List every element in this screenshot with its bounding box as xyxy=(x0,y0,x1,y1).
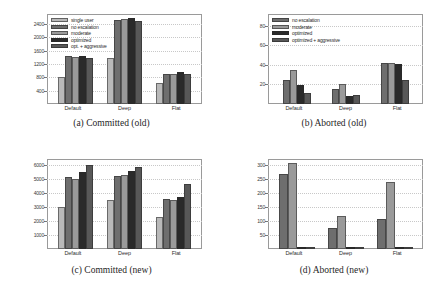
y-tick-label: 300 xyxy=(257,162,265,168)
legend-item: no escalation xyxy=(51,24,107,30)
bar-group xyxy=(279,159,315,249)
bar xyxy=(65,56,72,104)
plot-area-d: 50100150200250300 xyxy=(268,159,423,249)
legend-item: single user xyxy=(51,17,107,23)
x-axis-label: Deep xyxy=(321,250,369,256)
y-tick-label: 2000 xyxy=(34,34,44,40)
bar xyxy=(135,167,142,249)
bar xyxy=(386,182,395,249)
bar xyxy=(163,199,170,249)
x-axis-label: Deep xyxy=(100,105,148,111)
bar xyxy=(404,247,413,249)
bar xyxy=(337,216,346,249)
bar xyxy=(128,171,135,249)
bar xyxy=(86,165,93,249)
legend-swatch xyxy=(51,25,68,29)
bar xyxy=(339,84,346,104)
x-axis-label: Default xyxy=(49,250,97,256)
y-tick-label: 20 xyxy=(260,81,265,87)
bar xyxy=(304,93,311,104)
legend-swatch xyxy=(51,31,68,35)
y-tick-label: 60 xyxy=(260,42,265,48)
y-tick-label: 6000 xyxy=(34,162,44,168)
y-tick-label: 5000 xyxy=(34,176,44,182)
legend-label: moderate xyxy=(292,24,312,30)
bar xyxy=(121,19,128,104)
y-tick-label: 800 xyxy=(36,74,44,80)
legend-label: single user xyxy=(71,17,94,23)
legend-swatch xyxy=(51,18,68,22)
x-axis-label: Deep xyxy=(100,250,148,256)
legend-item: optimized xyxy=(51,37,107,43)
bar xyxy=(402,80,409,104)
legend-item: no escalation xyxy=(272,17,340,23)
y-tick-label: 40 xyxy=(260,62,265,68)
bar xyxy=(156,83,163,104)
legend-item: moderate xyxy=(272,24,340,30)
bar xyxy=(388,63,395,104)
bar xyxy=(114,20,121,104)
x-axis-label: Flat xyxy=(373,250,421,256)
x-axis-label: Default xyxy=(270,105,318,111)
legend-swatch xyxy=(272,38,289,42)
y-tick-label: 2000 xyxy=(34,218,44,224)
bar xyxy=(177,197,184,249)
bar xyxy=(58,77,65,104)
y-tick-label: 80 xyxy=(260,23,265,29)
bar xyxy=(297,85,304,104)
bar-group xyxy=(381,14,409,104)
y-tick-label: 1000 xyxy=(34,232,44,238)
bar xyxy=(58,207,65,249)
panel-d-aborted-new: 50100150200250300 DefaultDeepFlat (d) Ab… xyxy=(223,145,445,290)
bar xyxy=(163,74,170,104)
bar xyxy=(355,247,364,249)
legend-a: single userno escalationmoderateoptimize… xyxy=(51,17,107,49)
panel-a-committed-old: 4008001200160020002400 single userno esc… xyxy=(0,0,223,145)
bar xyxy=(135,21,142,104)
x-axis-label: Default xyxy=(270,250,318,256)
legend-swatch xyxy=(272,31,289,35)
x-axis-labels-a: DefaultDeepFlat xyxy=(47,105,202,111)
plot-area-c: 100020003000400050006000 xyxy=(47,159,202,249)
legend-label: optimized xyxy=(71,37,91,43)
bar-group xyxy=(58,159,93,249)
bar xyxy=(72,57,79,104)
x-axis-label: Flat xyxy=(152,105,200,111)
bar xyxy=(283,80,290,104)
bar-groups-d xyxy=(268,159,423,249)
x-axis-label: Default xyxy=(49,105,97,111)
bar-group xyxy=(107,14,142,104)
bar xyxy=(107,58,114,104)
y-tick-label: 1600 xyxy=(34,48,44,54)
y-tick-label: 50 xyxy=(260,232,265,238)
bar xyxy=(170,74,177,104)
plot-area-a: 4008001200160020002400 single userno esc… xyxy=(47,14,202,104)
legend-b: no escalationmoderateoptimizedoptimized … xyxy=(272,17,340,43)
legend-swatch xyxy=(51,44,68,48)
y-tick-label: 2400 xyxy=(34,21,44,27)
bar xyxy=(306,247,315,249)
bar xyxy=(346,96,353,104)
panel-caption-d: (d) Aborted (new) xyxy=(223,265,445,275)
legend-item: optimized + aggressive xyxy=(272,37,340,43)
bar xyxy=(395,64,402,104)
bar xyxy=(377,219,386,249)
legend-swatch xyxy=(272,18,289,22)
y-tick-label: 150 xyxy=(257,204,265,210)
bar xyxy=(114,176,121,249)
legend-label: no escalation xyxy=(292,17,320,23)
bar xyxy=(128,18,135,104)
bar xyxy=(79,172,86,249)
legend-label: optimized + aggressive xyxy=(292,37,340,43)
figure-grid: 4008001200160020002400 single userno esc… xyxy=(0,0,445,290)
bar-group xyxy=(377,159,413,249)
x-axis-labels-c: DefaultDeepFlat xyxy=(47,250,202,256)
legend-label: no escalation xyxy=(71,24,99,30)
bar xyxy=(346,247,355,249)
plot-area-b: 20406080 no escalationmoderateoptimizedo… xyxy=(268,14,423,104)
y-tick-label: 250 xyxy=(257,176,265,182)
x-axis-labels-d: DefaultDeepFlat xyxy=(268,250,423,256)
legend-item: moderate xyxy=(51,30,107,36)
x-axis-labels-b: DefaultDeepFlat xyxy=(268,105,423,111)
x-axis-label: Flat xyxy=(152,250,200,256)
